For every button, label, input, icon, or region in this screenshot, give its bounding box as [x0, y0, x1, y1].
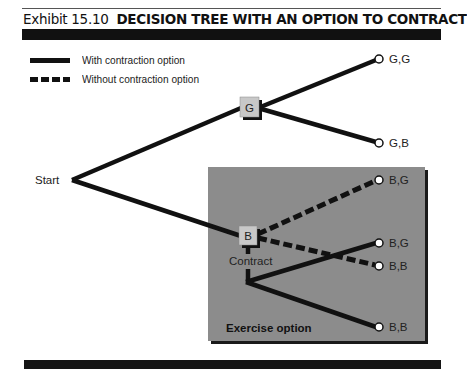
node-b: B: [239, 226, 260, 248]
branch-g-to-gg: [258, 60, 376, 108]
terminal-bb-without: [375, 262, 383, 270]
terminal-bg-with: [375, 239, 383, 247]
node-b-label: B: [244, 230, 252, 242]
g-branches: [258, 60, 376, 142]
outcome-label-bg-without: B,G: [389, 174, 409, 186]
node-g: G: [240, 97, 262, 120]
terminal-gg: [375, 55, 383, 63]
terminal-bg-without: [375, 176, 383, 184]
outcome-label-bg-with: B,G: [389, 237, 409, 249]
outcome-label-gg: G,G: [389, 53, 410, 65]
contract-label: Contract: [229, 255, 273, 267]
start-label: Start: [35, 174, 60, 186]
outcome-label-bb-with: B,B: [389, 321, 408, 333]
footer-bar: [24, 360, 441, 369]
terminal-gb: [375, 139, 383, 147]
exercise-option-label: Exercise option: [226, 322, 312, 334]
branch-g-to-gb: [258, 108, 376, 142]
outcome-label-gb: G,B: [389, 137, 409, 149]
node-g-label: G: [245, 102, 254, 114]
terminal-bb-with: [375, 323, 383, 331]
outcome-label-bb-without: B,B: [389, 260, 408, 272]
